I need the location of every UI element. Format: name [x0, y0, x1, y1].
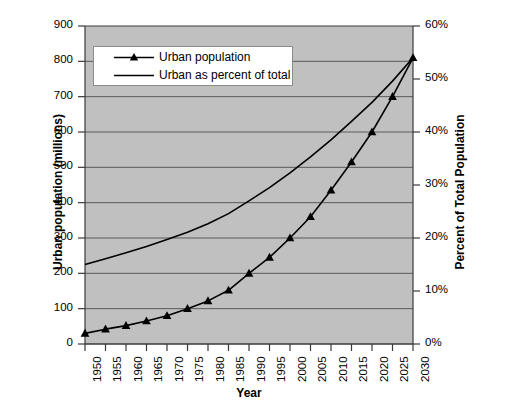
y-axis-right-ticks: [413, 26, 420, 344]
x-axis-tick-label: 2000: [296, 356, 308, 382]
y-axis-right-tick-label: 30%: [425, 177, 471, 189]
x-axis-tick-label: 2010: [337, 356, 349, 382]
x-axis-ticks: [85, 344, 413, 351]
x-axis-tick-label: 2015: [357, 356, 369, 382]
x-axis-tick-label: 1965: [152, 356, 164, 382]
legend-line-icon: [112, 66, 156, 85]
legend-item-urban-percent: Urban as percent of total: [94, 66, 292, 85]
legend-item-urban-population: Urban population: [94, 48, 292, 67]
x-axis-tick-label: 2030: [419, 356, 431, 382]
y-axis-right-tick-label: 60%: [425, 18, 471, 30]
y-axis-left-tick-label: 800: [33, 53, 73, 65]
x-axis-tick-label: 2020: [378, 356, 390, 382]
y-axis-left-tick-label: 900: [33, 18, 73, 30]
y-axis-left-tick-label: 600: [33, 124, 73, 136]
y-axis-right-tick-label: 0%: [425, 336, 471, 348]
y-axis-right-tick-label: 10%: [425, 283, 471, 295]
x-axis-tick-label: 1955: [111, 356, 123, 382]
y-axis-left-tick-label: 400: [33, 195, 73, 207]
legend-marker-triangle-icon: [112, 48, 156, 67]
legend-label-urban-percent: Urban as percent of total: [159, 68, 290, 82]
y-axis-left-ticks: [78, 26, 85, 344]
y-axis-right-tick-label: 50%: [425, 71, 471, 83]
y-axis-left-tick-label: 200: [33, 265, 73, 277]
x-axis-tick-label: 1975: [193, 356, 205, 382]
x-axis-tick-label: 1980: [214, 356, 226, 382]
y-axis-left-tick-label: 300: [33, 230, 73, 242]
y-axis-left-tick-label: 100: [33, 301, 73, 313]
x-axis-tick-label: 1985: [234, 356, 246, 382]
y-axis-left-tick-label: 500: [33, 159, 73, 171]
y-axis-right-tick-label: 20%: [425, 230, 471, 242]
x-axis-tick-label: 1970: [173, 356, 185, 382]
x-axis-tick-label: 1960: [132, 356, 144, 382]
x-axis-tick-label: 1990: [255, 356, 267, 382]
y-axis-right-tick-label: 40%: [425, 124, 471, 136]
legend: Urban population Urban as percent of tot…: [93, 46, 293, 86]
legend-label-urban-population: Urban population: [159, 50, 250, 64]
x-axis-tick-label: 2005: [316, 356, 328, 382]
x-axis-tick-label: 2025: [398, 356, 410, 382]
y-axis-left-tick-label: 700: [33, 89, 73, 101]
y-axis-left-tick-label: 0: [33, 336, 73, 348]
chart-container: Urban population (millions) Percent of T…: [0, 0, 507, 407]
x-axis-tick-label: 1995: [275, 356, 287, 382]
x-axis-tick-label: 1950: [91, 356, 103, 382]
